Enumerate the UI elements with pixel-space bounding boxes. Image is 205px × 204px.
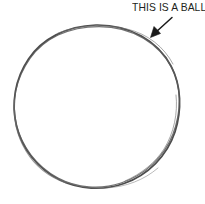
sketch-drawing [0, 0, 205, 204]
sketch-canvas: THIS IS A BALL [0, 0, 205, 204]
background-rect [0, 0, 205, 204]
annotation-label: THIS IS A BALL [132, 1, 205, 14]
